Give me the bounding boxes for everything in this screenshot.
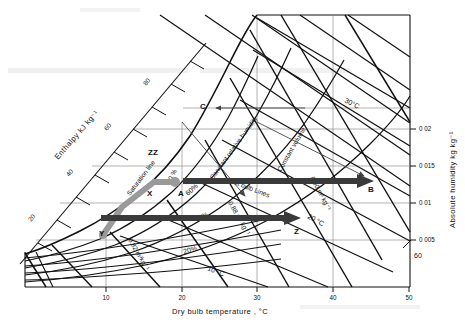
psychrometric-chart-figure: 20 40 60 80 Enthalpy kJ kg⁻¹ 60 10 20 30… (0, 0, 465, 322)
point-label-C: C (200, 102, 206, 111)
chart-svg: 20 40 60 80 Enthalpy kJ kg⁻¹ 60 10 20 30… (0, 0, 465, 322)
y-axis-right-title: Absolute humidity kg kg⁻¹ (448, 131, 457, 228)
y-tick-0015: 0 015 (419, 162, 435, 169)
enthalpy-right-60: 60 (414, 252, 422, 259)
x-tick-20: 20 (178, 294, 186, 301)
point-label-Z: Z (294, 227, 299, 236)
y-tick-0005: 0 005 (419, 236, 435, 243)
point-label-B: B (368, 185, 374, 194)
x-axis-title: Dry bulb temperature , °C (172, 307, 268, 316)
figure-background (0, 0, 465, 322)
marker-A-dot (170, 177, 180, 187)
x-tick-40: 40 (329, 294, 337, 301)
point-label-X: X (147, 189, 153, 198)
point-label-Y: Y (99, 229, 105, 238)
y-tick-001: 0 01 (419, 199, 432, 206)
x-tick-10: 10 (102, 294, 110, 301)
point-label-A: A (178, 189, 184, 198)
x-tick-50: 50 (405, 294, 413, 301)
point-label-ZZ: ZZ (148, 148, 158, 157)
x-tick-30: 30 (253, 294, 261, 301)
y-tick-002: 0 02 (419, 125, 432, 132)
